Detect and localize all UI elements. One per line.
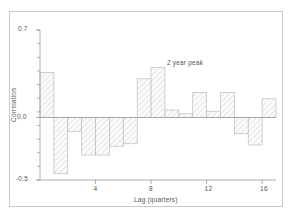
y-tick-label-top: 0.7 [18,25,28,32]
bar [234,118,248,134]
y-axis-title: Correlation [10,88,17,122]
y-axis-ticks [36,30,40,180]
bar [207,111,221,117]
bar [82,118,96,156]
chart-figure: 0.7 0.0 -0.5 4 8 12 16 Lag (quarters) Co… [0,0,293,216]
bar-series [40,68,276,174]
bar [40,73,54,118]
bar [248,118,262,146]
bar [123,118,137,144]
bar [165,110,179,118]
peak-annotation: 2 year peak [167,59,203,66]
bar [193,93,207,118]
bar [262,99,276,118]
y-tick-label-bottom: -0.5 [16,175,28,182]
x-tick-label-8: 8 [149,185,153,192]
bar [220,93,234,118]
bar [96,118,110,156]
x-axis-ticks [96,180,263,184]
bar [68,118,82,132]
x-tick-label-12: 12 [205,185,213,192]
bar [151,68,165,118]
x-tick-label-16: 16 [260,185,268,192]
x-tick-label-4: 4 [94,185,98,192]
x-axis-title: Lag (quarters) [134,196,178,203]
bar [137,79,151,118]
bar [109,118,123,147]
bar [179,114,193,118]
chart-plot-area [0,0,293,216]
bar [54,118,68,174]
y-tick-label-zero: 0.0 [17,113,27,120]
